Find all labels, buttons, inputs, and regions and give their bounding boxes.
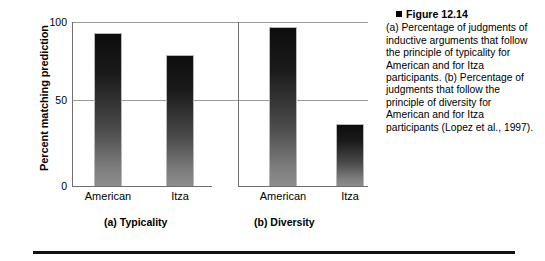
panel-b-x-axis-line	[238, 186, 368, 187]
figure-12-14: Percent matching prediction 100 50 0 Ame…	[0, 0, 545, 261]
panel-b-y-axis-line	[238, 22, 239, 187]
panel-typicality: American Itza (a) Typicality	[72, 0, 212, 240]
y-axis-tick-labels: 100 50 0	[41, 0, 67, 240]
bar-typicality-american	[94, 33, 122, 186]
bar-diversity-american	[269, 27, 297, 186]
chart-plot-area: Percent matching prediction 100 50 0 Ame…	[0, 0, 380, 240]
figure-caption-title-row: Figure 12.14	[396, 8, 536, 21]
x-label-typicality-american: American	[71, 190, 145, 203]
panel-b-caption: (b) Diversity	[254, 216, 315, 228]
y-tick-label-50: 50	[41, 95, 67, 105]
panel-diversity: American Itza (b) Diversity	[238, 0, 368, 240]
x-label-typicality-itza: Itza	[143, 190, 217, 203]
y-tick-label-100: 100	[41, 17, 67, 27]
panel-a-caption: (a) Typicality	[104, 216, 167, 228]
bar-typicality-itza	[166, 55, 194, 186]
figure-caption-block: Figure 12.14 (a) Percentage of judgments…	[386, 8, 536, 134]
square-bullet-icon	[396, 11, 402, 17]
x-label-diversity-itza: Itza	[313, 190, 387, 203]
panel-a-x-axis-line	[72, 186, 212, 187]
bottom-divider-rule	[33, 251, 515, 254]
y-tick-label-0: 0	[41, 181, 67, 191]
bar-diversity-itza	[336, 124, 364, 186]
x-label-diversity-american: American	[246, 190, 320, 203]
figure-caption-title: Figure 12.14	[406, 8, 468, 20]
panel-a-y-axis-line	[72, 22, 73, 187]
figure-caption-text: (a) Percentage of judgments of inductive…	[386, 22, 536, 134]
